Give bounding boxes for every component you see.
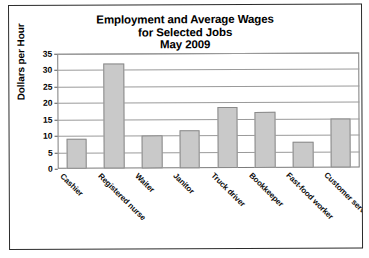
y-axis-title: Dollars per Hour bbox=[15, 7, 26, 117]
y-axis-tick-label: 0 bbox=[27, 164, 57, 174]
x-axis-category-label: Cashier bbox=[58, 172, 84, 198]
y-axis-tick-label: 20 bbox=[26, 98, 56, 108]
y-axis-tick-label: 25 bbox=[26, 82, 56, 92]
bar-slot bbox=[57, 54, 95, 169]
bar[interactable] bbox=[255, 112, 276, 168]
bar[interactable] bbox=[330, 118, 351, 167]
x-axis-category-label: Truck driver bbox=[209, 171, 247, 208]
x-axis-category-label: Customer service rep bbox=[323, 171, 363, 233]
y-axis-tick-label: 15 bbox=[26, 114, 56, 124]
chart-figure-frame: Employment and Average Wages for Selecte… bbox=[8, 3, 363, 250]
x-axis-category-label: Waiter bbox=[134, 171, 157, 194]
plot-area: 05101520253035 bbox=[57, 52, 359, 168]
bar[interactable] bbox=[179, 130, 200, 168]
bar[interactable] bbox=[217, 107, 238, 168]
chart-title: Employment and Average Wages for Selecte… bbox=[9, 12, 361, 51]
y-axis-tick-label: 10 bbox=[27, 131, 57, 141]
bar-slot bbox=[208, 53, 246, 168]
bar-slot bbox=[170, 53, 208, 168]
bar-slot bbox=[133, 53, 171, 168]
y-axis-tick-label: 35 bbox=[26, 49, 56, 59]
x-axis-category-label: Janitor bbox=[172, 171, 197, 195]
chart-figure-inner: Employment and Average Wages for Selecte… bbox=[9, 4, 362, 249]
y-axis-tick-label: 30 bbox=[26, 65, 56, 75]
x-axis-category-label: Bookkeeper bbox=[247, 171, 285, 209]
bar-slot bbox=[284, 53, 322, 168]
bar[interactable] bbox=[293, 141, 313, 167]
y-axis-tick-label: 5 bbox=[27, 147, 57, 157]
bar-slot bbox=[321, 52, 359, 167]
x-axis-category-labels: CashierRegistered nurseWaiterJanitorTruc… bbox=[58, 168, 360, 247]
bar-series bbox=[57, 52, 359, 168]
chart-title-line-3: May 2009 bbox=[9, 37, 361, 51]
bar-slot bbox=[95, 53, 133, 168]
bar[interactable] bbox=[104, 63, 125, 168]
bar-slot bbox=[246, 53, 284, 168]
bar[interactable] bbox=[142, 135, 163, 168]
bar[interactable] bbox=[66, 139, 87, 169]
